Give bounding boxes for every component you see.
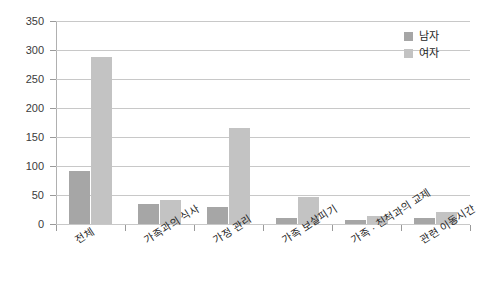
legend-item[interactable]: 남자 [404,28,474,45]
bar [276,218,297,224]
y-axis-tick-label: 0 [0,219,44,230]
y-axis-tick-label: 350 [0,16,44,27]
bar [414,218,435,224]
x-axis-tick-mark [470,225,471,231]
bar [91,57,112,224]
x-axis-tick-mark [401,225,402,231]
bar [229,128,250,224]
bar [345,220,366,224]
chart-legend: 남자여자 [404,28,474,62]
x-axis-tick-mark [263,225,264,231]
y-axis-tick-label: 50 [0,190,44,201]
legend-item[interactable]: 여자 [404,45,474,62]
x-axis-category-label: 전체 [73,225,96,246]
y-axis-tick-label: 100 [0,161,44,172]
x-axis-tick-mark [332,225,333,231]
legend-item-label: 남자 [419,31,439,42]
y-axis-tick-label: 200 [0,103,44,114]
x-axis-tick-mark [56,225,57,231]
bar-chart: 350300250200150100500 전체가족과의 식사가정 관리가족 보… [0,0,487,300]
legend-swatch-icon [404,49,413,58]
x-axis-tick-mark [125,225,126,231]
legend-swatch-icon [404,32,413,41]
y-axis-tick-label: 300 [0,45,44,56]
x-axis-tick-mark [194,225,195,231]
legend-item-label: 여자 [419,48,439,59]
bar [138,204,159,224]
y-axis-tick-label: 250 [0,74,44,85]
bar [69,171,90,224]
bar [207,207,228,224]
y-axis-tick-label: 150 [0,132,44,143]
